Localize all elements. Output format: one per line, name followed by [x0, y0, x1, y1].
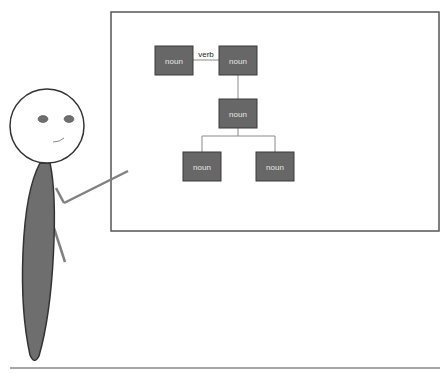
figure-body	[23, 163, 55, 360]
figure-head	[10, 89, 84, 163]
node-4: noun	[183, 152, 221, 181]
node-2: noun	[219, 46, 257, 75]
right-eye	[64, 116, 74, 123]
left-eye	[38, 116, 48, 123]
node-5: noun	[256, 152, 294, 181]
node-label: noun	[193, 163, 211, 172]
presenter-illustration: noun noun noun noun noun verb	[0, 0, 448, 374]
pointer-arm	[56, 188, 64, 203]
node-label: noun	[229, 57, 247, 66]
node-label: noun	[165, 57, 183, 66]
node-label: noun	[266, 163, 284, 172]
edge-label-verb: verb	[198, 50, 214, 59]
node-1: noun	[155, 46, 193, 75]
whiteboard	[111, 12, 439, 231]
node-3: noun	[219, 99, 257, 128]
node-label: noun	[229, 110, 247, 119]
